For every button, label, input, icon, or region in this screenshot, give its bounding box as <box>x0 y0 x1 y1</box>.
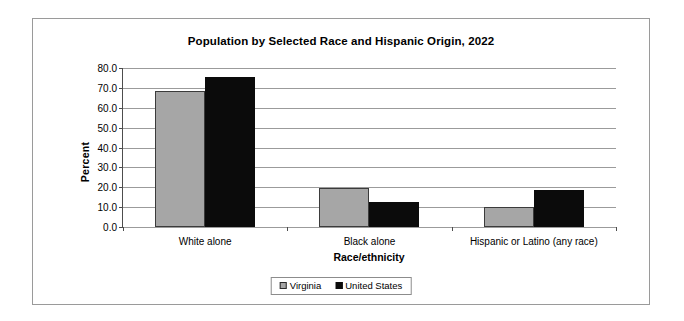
bar-group-bars <box>452 68 616 227</box>
plot-area: 80.070.060.050.040.030.020.010.00.0 Whit… <box>122 68 616 228</box>
y-tick-label: 50.0 <box>98 122 117 133</box>
bar-group: White alone <box>123 68 287 227</box>
y-tick-label: 20.0 <box>98 182 117 193</box>
bar-group-bars <box>287 68 451 227</box>
y-tick-label: 70.0 <box>98 82 117 93</box>
gridline <box>123 227 616 228</box>
bar-united-states[interactable] <box>534 190 584 227</box>
x-tick-mark <box>287 227 288 231</box>
y-tick-label: 40.0 <box>98 142 117 153</box>
y-tick-label: 30.0 <box>98 162 117 173</box>
y-tick-label: 60.0 <box>98 102 117 113</box>
bar-group-bars <box>123 68 287 227</box>
legend-label: United States <box>345 280 402 291</box>
y-tick-label: 0.0 <box>103 222 117 233</box>
legend-swatch-icon <box>280 282 287 289</box>
chart-title: Population by Selected Race and Hispanic… <box>33 35 649 47</box>
legend-item-virginia[interactable]: Virginia <box>280 280 322 291</box>
y-axis-title: Percent <box>79 141 91 182</box>
bar-united-states[interactable] <box>369 202 419 227</box>
x-tick-label: Hispanic or Latino (any race) <box>412 236 656 247</box>
legend-label: Virginia <box>290 280 322 291</box>
y-tick-label: 10.0 <box>98 202 117 213</box>
chart-frame: Population by Selected Race and Hispanic… <box>32 18 650 305</box>
bar-group: Black alone <box>287 68 451 227</box>
chart-legend: VirginiaUnited States <box>271 277 412 295</box>
y-tick-label: 80.0 <box>98 63 117 74</box>
legend-swatch-icon <box>335 282 342 289</box>
x-axis-title: Race/ethnicity <box>122 251 616 263</box>
x-tick-mark <box>452 227 453 231</box>
legend-item-united-states[interactable]: United States <box>335 280 402 291</box>
bar-virginia[interactable] <box>484 207 534 227</box>
bar-group: Hispanic or Latino (any race) <box>452 68 616 227</box>
x-tick-mark <box>123 227 124 231</box>
bar-virginia[interactable] <box>155 91 205 227</box>
bar-virginia[interactable] <box>319 188 369 227</box>
x-tick-mark <box>616 227 617 231</box>
bar-united-states[interactable] <box>205 77 255 227</box>
